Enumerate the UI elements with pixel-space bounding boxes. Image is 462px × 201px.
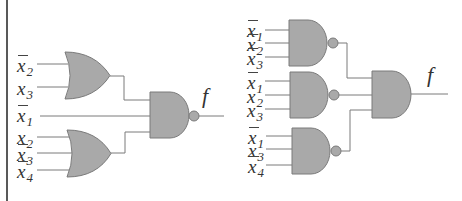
- label-right-n2-x3: x3: [247, 101, 263, 120]
- negation-bar: [18, 105, 28, 106]
- var: x: [17, 105, 25, 126]
- wire-or2-to-nand: [111, 132, 150, 153]
- or-gate-1: [65, 52, 110, 99]
- negation-bar: [249, 156, 259, 157]
- negation-bar: [18, 144, 28, 145]
- subscript: 1: [26, 114, 33, 129]
- var: x: [247, 100, 255, 121]
- subscript: 4: [257, 165, 264, 180]
- negation-bar: [18, 55, 28, 56]
- subscript: 3: [26, 87, 33, 102]
- var: x: [247, 48, 255, 69]
- negation-bar: [248, 72, 258, 73]
- subscript: 2: [26, 64, 33, 79]
- subscript: 4: [26, 170, 33, 185]
- label-left-x1bar: x1: [17, 106, 33, 125]
- var: x: [248, 156, 256, 177]
- and-gate-right-output: [372, 71, 411, 118]
- negation-bar: [248, 48, 258, 49]
- left-circuit: [37, 52, 224, 177]
- label-right-n3-x4bar: x4: [248, 157, 264, 176]
- label-left-x4bar: x4: [17, 162, 33, 181]
- label-left-output-f: f: [202, 85, 208, 107]
- nand-gate-3: [292, 128, 330, 174]
- right-circuit: [265, 20, 448, 174]
- label-left-x3: x3: [17, 79, 33, 98]
- or-gate-2: [67, 130, 111, 177]
- nand-gate-1: [289, 20, 327, 66]
- nand-gate-2-bubble: [329, 90, 339, 100]
- logic-diagram: [0, 0, 462, 201]
- negation-bar: [249, 127, 259, 128]
- label-right-output-f: f: [427, 64, 433, 86]
- var: x: [17, 161, 25, 182]
- negation-bar: [248, 20, 258, 21]
- negation-bar: [248, 34, 258, 35]
- nand-gate-1-bubble: [328, 38, 338, 48]
- var: x: [17, 78, 25, 99]
- label-right-n1-x3bar: x3: [247, 49, 263, 68]
- var: x: [17, 55, 25, 76]
- subscript: 3: [256, 109, 263, 124]
- nand-gate-2: [290, 72, 328, 118]
- label-left-x2bar: x2: [17, 56, 33, 75]
- nand-gate-left-output: [150, 92, 189, 138]
- negation-bar: [18, 161, 28, 162]
- wire-nand1-to-and: [338, 43, 372, 78]
- subscript: 3: [256, 57, 263, 72]
- inversion-bubble: [189, 111, 199, 121]
- wire-nand3-to-and: [341, 110, 372, 151]
- wire-or1-to-nand: [110, 76, 150, 100]
- nand-gate-3-bubble: [331, 146, 341, 156]
